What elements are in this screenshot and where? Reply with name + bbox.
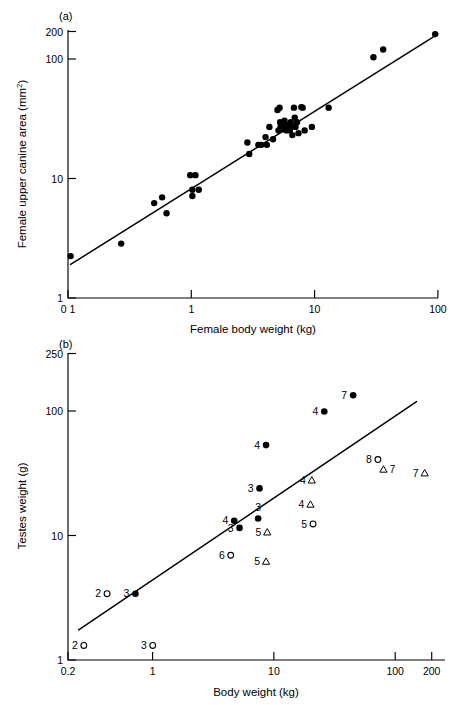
panel-a-ytick-10: 10: [51, 173, 63, 185]
data-point: [301, 127, 307, 133]
panel-b-x-ticks: [68, 652, 432, 660]
panel-a-xtick-1: 1: [188, 303, 194, 315]
data-point: [325, 104, 331, 110]
data-point: [163, 210, 169, 216]
panel-b-xtick-10: 10: [268, 665, 280, 677]
data-point: [192, 172, 198, 178]
data-point-filled-circle: [236, 525, 243, 532]
panel-a-ylabel-text: Female upper canine area (mm: [16, 88, 28, 248]
panel-b-ytick-250: 250: [45, 348, 63, 360]
data-point-label: 8: [366, 453, 372, 465]
data-point-filled-circle: [132, 590, 139, 597]
data-point-open-circle: [104, 591, 110, 597]
data-point: [299, 104, 305, 110]
data-point: [432, 31, 438, 37]
panel-a-points: [67, 31, 438, 259]
data-point-label: 4: [299, 498, 305, 510]
data-point: [246, 151, 252, 157]
data-point: [294, 119, 300, 125]
data-point-open-triangle: [262, 558, 269, 564]
panel-a-axes: [68, 30, 438, 298]
panel-a-x-ticks: [68, 290, 438, 298]
data-point-label: 3: [141, 639, 147, 651]
panel-a-xtick-10: 10: [309, 303, 321, 315]
panel-a-ylabel: Female upper canine area (mm2): [15, 79, 29, 248]
data-point: [289, 132, 295, 138]
data-point: [295, 130, 301, 136]
figure-container: (a) 200 100 10 1 0 1 1 10: [0, 0, 465, 705]
panel-a: (a) 200 100 10 1 0 1 1 10: [0, 0, 465, 340]
data-point: [262, 134, 268, 140]
data-point: [151, 200, 157, 206]
data-point-open-circle: [81, 643, 87, 649]
panel-a-xtick-0.1: 0 1: [61, 303, 76, 315]
panel-b-points: 34333447223658554477: [72, 389, 428, 651]
data-point-open-circle: [375, 457, 381, 463]
panel-a-regression-line: [71, 34, 438, 264]
panel-b: (b) 250 100 10 1 0.2 1 10 100: [0, 330, 465, 705]
data-point: [270, 136, 276, 142]
panel-a-label: (a): [59, 10, 72, 22]
panel-b-y-ticks: [68, 354, 76, 661]
panel-b-ytick-10: 10: [51, 530, 63, 542]
data-point-label: 3: [228, 522, 234, 534]
data-point-open-circle: [150, 643, 156, 649]
data-point: [309, 124, 315, 130]
panel-b-ytick-100: 100: [45, 405, 63, 417]
panel-a-ytick-200: 200: [45, 26, 63, 38]
data-point-open-triangle: [307, 501, 314, 507]
data-point: [189, 193, 195, 199]
data-point-label: 4: [300, 474, 306, 486]
data-point-label: 3: [255, 501, 261, 513]
data-point-label: 5: [301, 518, 307, 530]
data-point-open-circle: [228, 552, 234, 558]
data-point: [67, 253, 73, 259]
panel-a-ytick-100: 100: [45, 53, 63, 65]
data-point: [258, 142, 264, 148]
data-point-label: 5: [255, 526, 261, 538]
panel-b-xtick-100: 100: [386, 665, 404, 677]
data-point: [276, 104, 282, 110]
data-point: [189, 187, 195, 193]
data-point: [291, 104, 297, 110]
data-point-label: 2: [72, 639, 78, 651]
data-point: [244, 139, 250, 145]
panel-b-xtick-200: 200: [423, 665, 441, 677]
data-point-label: 3: [248, 482, 254, 494]
panel-b-xtick-1: 1: [150, 665, 156, 677]
data-point: [266, 124, 272, 130]
data-point-filled-circle: [350, 392, 357, 399]
data-point-open-triangle: [421, 469, 428, 475]
data-point-label: 5: [254, 555, 260, 567]
panel-b-xtick-0.2: 0.2: [61, 665, 76, 677]
data-point-label: 4: [312, 405, 318, 417]
data-point-label: 6: [219, 549, 225, 561]
caption-fragment: [0, 697, 465, 705]
data-point: [118, 240, 124, 246]
data-point: [264, 142, 270, 148]
data-point-label: 7: [341, 389, 347, 401]
data-point-label: 7: [413, 467, 419, 479]
data-point-label: 3: [124, 587, 130, 599]
data-point: [380, 46, 386, 52]
data-point-open-triangle: [380, 466, 387, 472]
data-point: [196, 187, 202, 193]
data-point-filled-circle: [255, 515, 262, 522]
data-point-label: 2: [95, 587, 101, 599]
data-point-open-circle: [310, 521, 316, 527]
panel-b-ylabel: Testes weight (g): [16, 462, 28, 549]
panel-a-xtick-100: 100: [429, 303, 447, 315]
panel-b-plot: (b) 250 100 10 1 0.2 1 10 100: [0, 330, 465, 705]
panel-a-plot: (a) 200 100 10 1 0 1 1 10: [0, 0, 465, 340]
data-point-filled-circle: [256, 485, 263, 492]
data-point: [370, 54, 376, 60]
data-point-filled-circle: [321, 408, 328, 415]
data-point-open-triangle: [308, 477, 315, 483]
data-point: [159, 194, 165, 200]
data-point-label: 7: [389, 463, 395, 475]
data-point-filled-circle: [263, 442, 270, 449]
data-point-label: 4: [254, 439, 260, 451]
data-point-open-triangle: [264, 529, 271, 535]
